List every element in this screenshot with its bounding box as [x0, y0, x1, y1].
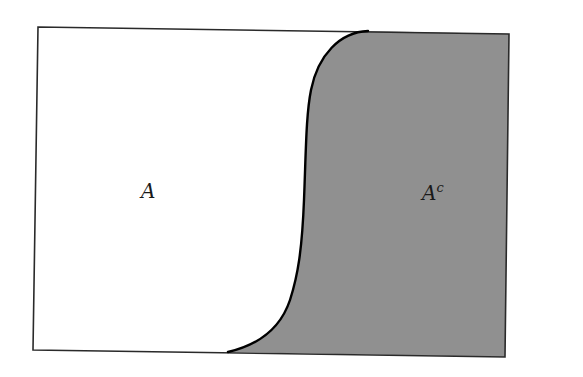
region-a-label: A [139, 179, 155, 203]
set-complement-diagram: A Ac [0, 0, 583, 377]
complement-superscript: c [436, 180, 444, 195]
